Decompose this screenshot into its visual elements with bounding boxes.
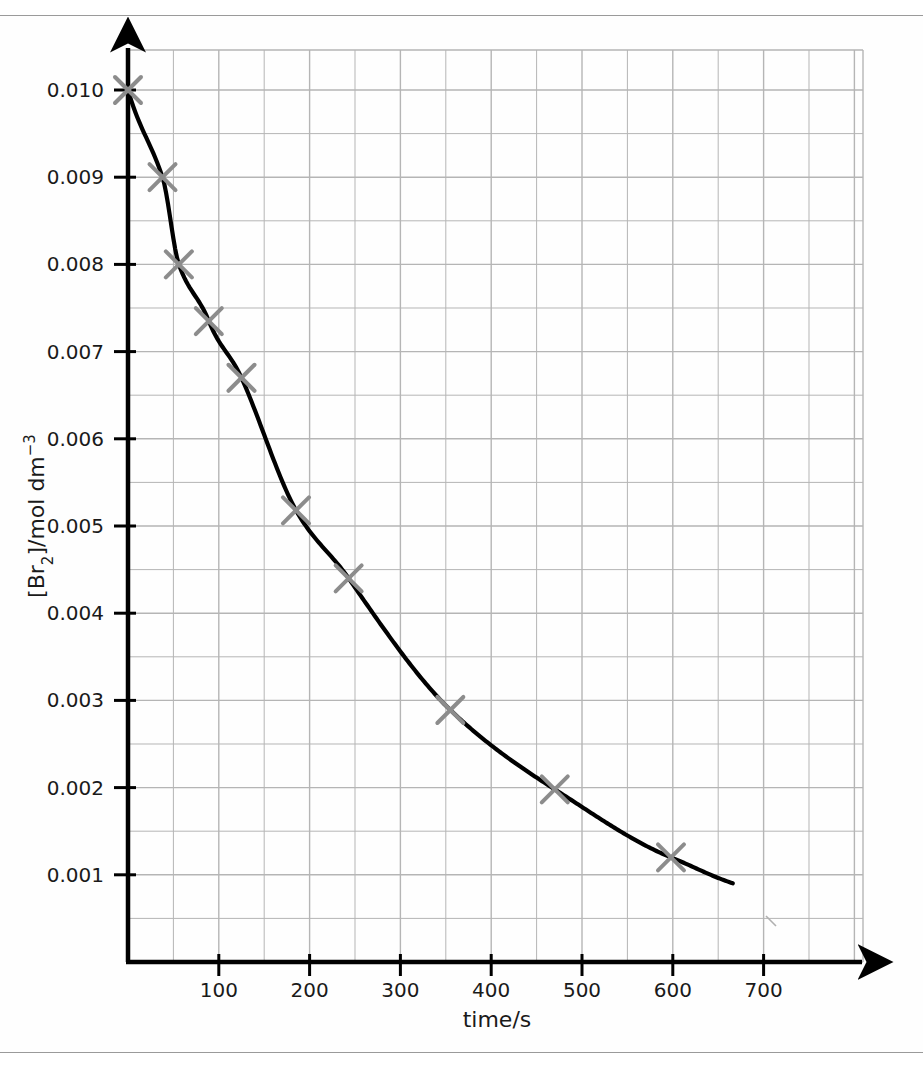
data-point-marker [542, 776, 568, 802]
y-axis-tick-label: 0.005 [47, 514, 104, 538]
axis-lines [126, 48, 862, 962]
x-axis-ticks [219, 954, 764, 976]
x-axis-tick-labels: 100200300400500600700 [200, 978, 783, 1002]
figure-page: 0.0010.0020.0030.0040.0050.0060.0070.008… [0, 0, 923, 1069]
y-axis-tick-label: 0.006 [47, 427, 104, 451]
y-axis-tick-label: 0.009 [47, 165, 104, 189]
y-axis-tick-label: 0.008 [47, 252, 104, 276]
y-axis-tick-label: 0.007 [47, 340, 104, 364]
data-point-marker [229, 365, 255, 391]
x-axis-tick-label: 300 [381, 978, 419, 1002]
y-axis-tick-labels: 0.0010.0020.0030.0040.0050.0060.0070.008… [47, 78, 104, 887]
x-axis-tick-label: 200 [291, 978, 329, 1002]
x-axis-tick-label: 600 [654, 978, 692, 1002]
x-axis-title-text: time/s [463, 1007, 532, 1032]
grid-major [128, 50, 863, 962]
y-axis-tick-label: 0.004 [47, 601, 104, 625]
data-point-markers [115, 77, 684, 870]
y-axis-tick-label: 0.001 [47, 863, 104, 887]
page-rule-bottom [0, 1052, 923, 1053]
data-point-marker [196, 308, 222, 334]
y-axis-tick-label: 0.002 [47, 776, 104, 800]
concentration-vs-time-chart: 0.0010.0020.0030.0040.0050.0060.0070.008… [0, 16, 923, 1052]
data-point-marker [658, 844, 684, 870]
stray-pencil-mark [766, 916, 776, 926]
x-axis-tick-label: 100 [200, 978, 238, 1002]
data-point-marker [283, 497, 309, 523]
grid-minor [128, 50, 863, 962]
y-axis-tick-label: 0.010 [47, 78, 104, 102]
y-axis-tick-label: 0.003 [47, 688, 104, 712]
chart-figure: 0.0010.0020.0030.0040.0050.0060.0070.008… [0, 16, 923, 1052]
x-axis-tick-label: 400 [472, 978, 510, 1002]
x-axis-tick-label: 500 [563, 978, 601, 1002]
x-axis-tick-label: 700 [745, 978, 783, 1002]
